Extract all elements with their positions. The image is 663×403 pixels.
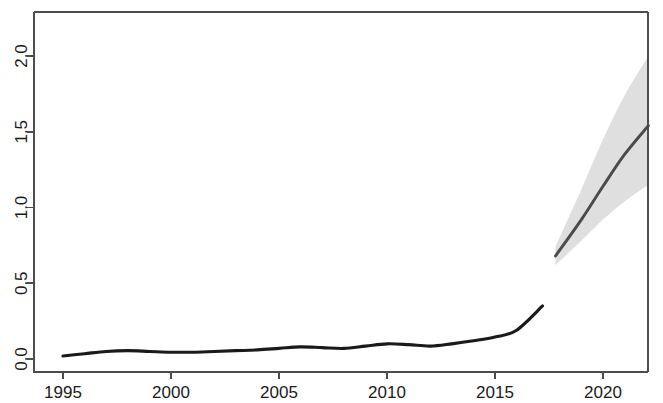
- x-axis-tick-label: 2000: [152, 383, 190, 402]
- y-axis-tick-label: 2.0: [12, 44, 31, 68]
- chart-axes: [34, 12, 648, 372]
- historical-series-line: [63, 306, 543, 356]
- y-axis-tick-label: 1.5: [12, 120, 31, 144]
- forecast-chart: 0.00.51.01.52.0199520002005201020152020: [0, 0, 663, 403]
- forecast-interval-band-area: [555, 56, 648, 265]
- y-axis-tick-label: 0.5: [12, 271, 31, 295]
- x-axis-tick-label: 2015: [476, 383, 514, 402]
- x-axis-tick-label: 2010: [368, 383, 406, 402]
- x-axis-tick-label: 1995: [44, 383, 82, 402]
- x-axis-tick-label: 2020: [584, 383, 622, 402]
- x-axis-tick-label: 2005: [260, 383, 298, 402]
- y-axis-tick-label: 1.0: [12, 196, 31, 220]
- y-axis-tick-label: 0.0: [12, 347, 31, 371]
- chart-canvas: 0.00.51.01.52.0199520002005201020152020: [0, 0, 663, 403]
- forecast-interval-band: [555, 56, 648, 265]
